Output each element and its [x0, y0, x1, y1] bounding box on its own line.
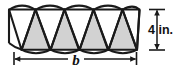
shaded-triangle-d — [109, 10, 138, 50]
shaded-triangle-b — [51, 10, 80, 50]
height-arrow-up-icon — [154, 10, 160, 16]
base-arrow-left-icon — [14, 56, 20, 62]
height-dimension-group: 4 in. — [148, 10, 173, 51]
height-arrow-down-icon — [154, 44, 160, 50]
base-label: b — [72, 52, 80, 67]
right-edge — [137, 10, 140, 50]
geometry-figure: 4 in. b — [0, 0, 181, 66]
shaded-triangle-a — [22, 10, 51, 50]
shaded-triangle-c — [80, 10, 109, 50]
figure-svg: 4 in. b — [0, 0, 181, 66]
height-label: 4 in. — [148, 23, 173, 37]
base-arrow-right-icon — [130, 56, 136, 62]
